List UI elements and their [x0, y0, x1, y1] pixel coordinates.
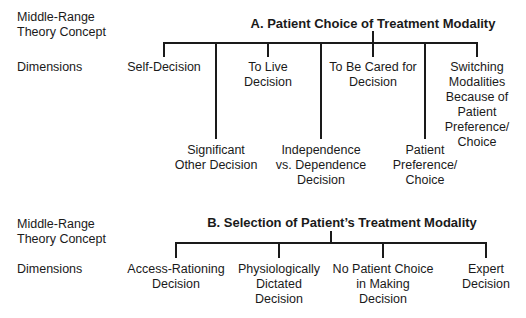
connector: [320, 42, 322, 139]
dimensions-label-b: Dimensions: [17, 262, 82, 277]
dimension-access-rationing: Access-Rationing Decision: [127, 262, 224, 292]
concept-label-line: Theory Concept: [17, 25, 106, 40]
dimension-independence-vs-dependence: Independence vs. Dependence Decision: [276, 143, 366, 188]
node-line: Physiologically: [238, 262, 320, 277]
connector: [175, 242, 177, 258]
connector: [163, 42, 165, 57]
concept-title-a: A. Patient Choice of Treatment Modality: [251, 16, 496, 31]
node-line: Decision: [329, 75, 417, 90]
dimension-to-be-cared-for: To Be Cared for Decision: [329, 60, 417, 90]
node-line: Self-Decision: [127, 60, 201, 75]
node-line: Patient: [445, 105, 510, 120]
node-line: Dictated: [238, 277, 320, 292]
node-line: Other Decision: [175, 158, 258, 173]
dimension-self-decision: Self-Decision: [127, 60, 201, 75]
node-line: Because of: [445, 90, 510, 105]
dimension-to-live-decision: To Live Decision: [244, 60, 292, 90]
node-line: Choice: [393, 173, 458, 188]
connector: [278, 242, 280, 258]
connector: [372, 42, 374, 57]
concept-title-b: B. Selection of Patient’s Treatment Moda…: [207, 215, 477, 230]
node-line: Switching: [445, 60, 510, 75]
concept-label-b: Middle-Range Theory Concept: [17, 217, 106, 247]
node-line: To Live: [244, 60, 292, 75]
node-line: in Making: [333, 277, 434, 292]
dimension-no-patient-choice: No Patient Choice in Making Decision: [333, 262, 434, 307]
node-line: Preference/: [445, 120, 510, 135]
node-line: No Patient Choice: [333, 262, 434, 277]
connector: [382, 242, 384, 258]
node-line: Decision: [462, 277, 510, 292]
node-line: Preference/: [393, 158, 458, 173]
dimension-expert-decision: Expert Decision: [462, 262, 510, 292]
node-line: Decision: [276, 173, 366, 188]
connector: [485, 242, 487, 258]
node-line: Access-Rationing: [127, 262, 224, 277]
connector: [476, 42, 478, 57]
node-line: vs. Dependence: [276, 158, 366, 173]
concept-label-line: Middle-Range: [17, 10, 106, 25]
concept-label-line: Theory Concept: [17, 232, 106, 247]
node-line: Expert: [462, 262, 510, 277]
branch-bar-b: [175, 242, 487, 244]
dimension-significant-other-decision: Significant Other Decision: [175, 143, 258, 173]
node-line: Independence: [276, 143, 366, 158]
dimension-physiologically-dictated: Physiologically Dictated Decision: [238, 262, 320, 307]
connector: [424, 42, 426, 139]
node-line: Significant: [175, 143, 258, 158]
node-line: Decision: [333, 292, 434, 307]
node-line: Decision: [127, 277, 224, 292]
node-line: Decision: [238, 292, 320, 307]
dimensions-label-a: Dimensions: [17, 60, 82, 75]
node-line: To Be Cared for: [329, 60, 417, 75]
node-line: Modalities: [445, 75, 510, 90]
dimension-switching-modalities: Switching Modalities Because of Patient …: [445, 60, 510, 150]
concept-label-a: Middle-Range Theory Concept: [17, 10, 106, 40]
connector: [215, 42, 217, 139]
concept-label-line: Middle-Range: [17, 217, 106, 232]
node-line: Choice: [445, 135, 510, 150]
node-line: Decision: [244, 75, 292, 90]
connector: [267, 42, 269, 57]
